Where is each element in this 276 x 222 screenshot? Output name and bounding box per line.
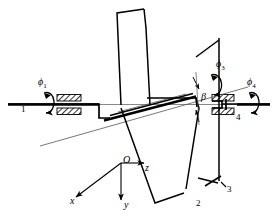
- label-phi3: ϕ3: [216, 59, 225, 72]
- leader-lines: [221, 182, 226, 187]
- label-axis-x: x: [70, 196, 74, 206]
- label-phi4: ϕ4: [247, 77, 256, 90]
- coordinate-frame: [76, 163, 144, 200]
- label-link-3: 3: [227, 185, 232, 194]
- label-link-2: 2: [196, 199, 201, 208]
- label-axis-z: z: [145, 163, 149, 173]
- rotation-arrow-phi3: [211, 75, 222, 95]
- rotation-arrow-phi1: [44, 93, 54, 113]
- mechanism-diagram: ϕ1 ϕ3 ϕ4 β 1 2 3 4 O z y x: [0, 0, 276, 222]
- label-origin-O: O: [123, 155, 130, 165]
- label-axis-y: y: [124, 200, 128, 210]
- label-link-4: 4: [236, 113, 241, 122]
- rotation-arrow-phi4: [249, 93, 259, 113]
- x-axis-line: [76, 163, 121, 197]
- diagram-canvas: [0, 0, 276, 222]
- label-link-1: 1: [21, 105, 26, 114]
- label-beta: β: [201, 92, 206, 102]
- label-phi1: ϕ1: [38, 77, 47, 90]
